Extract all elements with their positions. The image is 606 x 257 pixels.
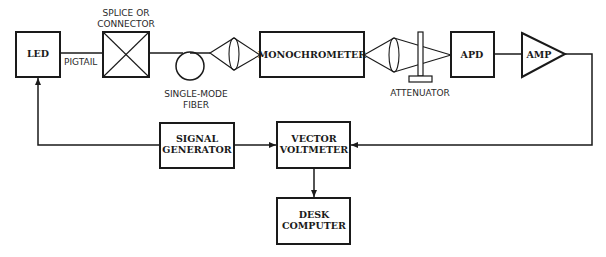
led-block: LED <box>16 32 60 77</box>
apd-label: APD <box>460 49 484 60</box>
attenuator: ATTENUATOR <box>390 32 450 98</box>
amp-label: AMP <box>525 49 551 60</box>
splice-label-line2: CONNECTOR <box>97 19 155 29</box>
vector-voltmeter-block: VECTOR VOLTMETER <box>277 122 350 168</box>
splice-label-line1: SPLICE OR <box>103 8 150 18</box>
monochrometer-label: MONOCHROMETER <box>258 49 367 60</box>
led-label: LED <box>27 48 49 59</box>
vector-voltmeter-label-line2: VOLTMETER <box>279 144 349 155</box>
measurement-setup-diagram: LED PIGTAIL SPLICE OR CONNECTOR SINGLE-M… <box>0 0 606 257</box>
input-lens <box>210 38 260 70</box>
apd-block: APD <box>451 32 494 77</box>
signal-generator-block: SIGNAL GENERATOR <box>160 123 234 168</box>
splice-connector-block: SPLICE OR CONNECTOR <box>97 8 155 77</box>
fiber-label-line1: SINGLE-MODE <box>164 89 228 99</box>
pigtail-label: PIGTAIL <box>64 57 97 67</box>
generator-to-led-line <box>38 78 160 145</box>
attenuator-label: ATTENUATOR <box>390 88 450 98</box>
single-mode-fiber: SINGLE-MODE FIBER <box>149 52 228 110</box>
vector-voltmeter-label-line1: VECTOR <box>290 133 337 144</box>
desk-computer-block: DESK COMPUTER <box>277 198 350 244</box>
signal-generator-label-line2: GENERATOR <box>162 144 231 155</box>
fiber-label-line2: FIBER <box>183 100 209 110</box>
monochrometer-block: MONOCHROMETER <box>258 32 367 77</box>
signal-generator-label-line1: SIGNAL <box>176 133 218 144</box>
output-lens <box>364 38 451 72</box>
desk-computer-label-line1: DESK <box>299 209 330 220</box>
amp-block: AMP <box>522 33 565 77</box>
desk-computer-label-line2: COMPUTER <box>282 220 346 231</box>
